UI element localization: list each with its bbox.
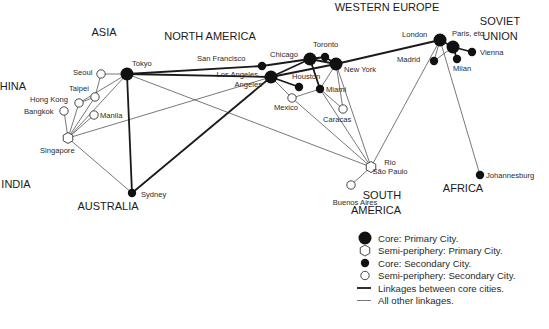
city-label-rio-sao-paulo-line2: São Paulo xyxy=(372,167,407,176)
city-node-bangkok xyxy=(60,107,68,115)
city-node-taipei xyxy=(91,93,99,101)
city-node-manila xyxy=(90,111,98,119)
city-node-mexico xyxy=(288,94,296,102)
region-label-south-america-line2: AMERICA xyxy=(351,204,402,216)
legend-label: All other linkages. xyxy=(378,295,454,306)
city-label-los-angeles-line2: Angeles xyxy=(235,80,263,89)
link-miami-rio-sao-paulo xyxy=(320,89,371,167)
city-label-rio-sao-paulo: Rio xyxy=(384,158,395,167)
city-label-san-francisco: San Francisco xyxy=(197,54,246,63)
city-node-los-angeles xyxy=(265,71,278,84)
city-label-hong-kong: Hong Kong xyxy=(30,95,68,104)
region-label-india: INDIA xyxy=(1,178,31,190)
city-node-sydney xyxy=(128,189,136,197)
legend-label: Linkages between core cities. xyxy=(378,283,504,294)
city-node-tokyo xyxy=(121,68,134,81)
legend-item-core-secondary: Core: Secondary City. xyxy=(361,258,471,269)
city-label-madrid: Madrid xyxy=(397,55,420,64)
city-node-milan xyxy=(453,55,461,63)
core-primary-icon xyxy=(359,232,372,245)
city-node-houston xyxy=(295,83,303,91)
city-label-milan: Milan xyxy=(453,64,471,73)
region-label-north-america: NORTH AMERICA xyxy=(164,30,256,42)
city-label-miami: Miami xyxy=(326,85,347,94)
core-link-tokyo-sydney xyxy=(127,74,132,193)
city-node-hong-kong xyxy=(75,99,83,107)
city-node-vienna xyxy=(468,48,476,56)
core-link-sydney-los-angeles xyxy=(132,77,271,193)
region-labels: ASIACHINAINDIAAUSTRALIANORTH AMERICAWEST… xyxy=(0,1,520,216)
world-city-hierarchy-diagram: TokyoSeoulTaipeiHong KongBangkokManilaSi… xyxy=(0,0,549,329)
city-label-manila: Manila xyxy=(100,111,123,120)
region-label-western-europe: WESTERN EUROPE xyxy=(335,1,440,13)
core-linkages xyxy=(127,40,472,193)
region-label-asia: ASIA xyxy=(91,26,117,38)
city-node-johannesburg xyxy=(476,171,484,179)
region-label-china: CHINA xyxy=(0,80,27,92)
legend-label: Core: Primary City. xyxy=(378,233,458,244)
city-label-mexico: Mexico xyxy=(274,103,298,112)
city-label-caracas: Caracas xyxy=(323,115,351,124)
core-secondary-icon xyxy=(361,259,369,267)
city-label-paris: Paris, etc. xyxy=(452,29,486,38)
region-label-africa: AFRICA xyxy=(443,182,484,194)
city-node-seoul xyxy=(97,70,105,78)
legend-item-other-link: All other linkages. xyxy=(357,295,454,306)
city-node-buenos-aires xyxy=(347,181,355,189)
city-label-new-york: New York xyxy=(344,65,376,74)
legend: Core: Primary City.Semi-periphery: Prima… xyxy=(357,232,515,307)
core-link-new-york-london xyxy=(336,40,440,64)
city-node-toronto xyxy=(321,53,329,61)
city-label-chicago: Chicago xyxy=(270,50,298,59)
semi-secondary-icon xyxy=(361,271,369,279)
city-label-seoul: Seoul xyxy=(73,68,93,77)
city-label-houston: Houston xyxy=(292,72,320,81)
city-node-caracas xyxy=(339,105,347,113)
city-label-singapore: Singapore xyxy=(40,146,75,155)
city-label-johannesburg: Johannesburg xyxy=(486,171,534,180)
legend-item-semi-secondary: Semi-periphery: Secondary City. xyxy=(361,270,516,281)
city-node-madrid xyxy=(430,57,438,65)
city-label-sydney: Sydney xyxy=(141,190,167,199)
city-node-san-francisco xyxy=(258,62,266,70)
city-label-toronto: Toronto xyxy=(313,40,338,49)
city-node-miami xyxy=(316,85,324,93)
legend-label: Core: Secondary City. xyxy=(378,258,471,269)
legend-label: Semi-periphery: Secondary City. xyxy=(378,270,515,281)
city-label-los-angeles: Los Angeles xyxy=(217,70,259,79)
legend-label: Semi-periphery: Primary City. xyxy=(378,245,503,256)
region-label-australia: AUSTRALIA xyxy=(77,200,139,212)
semi-primary-icon xyxy=(360,245,370,256)
region-label-soviet-line2: UNION xyxy=(482,30,518,42)
city-label-tokyo: Tokyo xyxy=(132,59,152,68)
city-label-bangkok: Bangkok xyxy=(24,107,54,116)
city-node-london xyxy=(434,34,447,47)
city-node-new-york xyxy=(330,58,343,71)
city-label-london: London xyxy=(402,30,427,39)
city-node-chicago xyxy=(304,53,317,66)
city-node-singapore xyxy=(63,133,73,144)
legend-item-semi-primary: Semi-periphery: Primary City. xyxy=(360,245,502,256)
legend-item-core-primary: Core: Primary City. xyxy=(359,232,459,245)
city-label-taipei: Taipei xyxy=(69,84,89,93)
legend-item-core-link: Linkages between core cities. xyxy=(357,283,504,294)
link-singapore-sydney xyxy=(68,138,132,193)
city-node-paris xyxy=(447,41,460,54)
city-label-vienna: Vienna xyxy=(480,48,504,57)
region-label-south-america-line1: SOUTH xyxy=(363,189,402,201)
region-label-soviet-line1: SOVIET xyxy=(480,15,521,27)
